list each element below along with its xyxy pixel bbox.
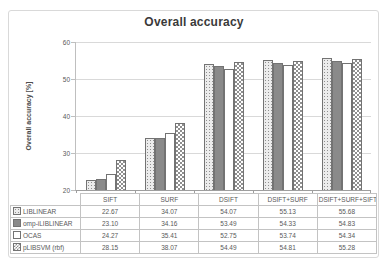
table-header-row: SIFTSURFDSIFTDSIFT+SURFDSIFT+SURF+SIFT [11,194,377,206]
legend-swatch-icon [13,219,21,227]
y-axis-label: Overall accuracy [%] [25,42,35,190]
value-cell: 54.83 [317,218,376,230]
y-tick-label: 30 [50,150,70,157]
table-row: pLIBSVM (rbf)28.1538.0754.4954.8155.28 [11,242,377,254]
legend-cell: omp-iLIBLINEAR [11,218,81,230]
category-header: DSIFT [199,194,258,206]
bar-omp-iLIBLINEAR-SIFT [96,179,106,190]
bar-LIBLINEAR-DSIFT [204,64,214,190]
y-tick-label: 60 [50,39,70,46]
value-cell: 34.07 [140,206,199,218]
value-cell: 54.81 [258,242,317,254]
value-cell: 54.49 [199,242,258,254]
data-table-body: SIFTSURFDSIFTDSIFT+SURFDSIFT+SURF+SIFTLI… [11,194,377,254]
bar-pLIBSVM (rbf)-DSIFT+SURF+SIFT [352,59,362,190]
value-cell: 54.33 [258,218,317,230]
category-header: SURF [140,194,199,206]
chart-title: Overall accuracy [8,15,380,29]
bar-LIBLINEAR-DSIFT+SURF+SIFT [322,58,332,190]
data-table: SIFTSURFDSIFTDSIFT+SURFDSIFT+SURF+SIFTLI… [10,193,377,254]
table-corner-cell [11,194,81,206]
value-cell: 24.27 [81,230,140,242]
value-cell: 35.41 [140,230,199,242]
category-header: DSIFT+SURF+SIFT [317,194,376,206]
bar-OCAS-DSIFT+SURF [283,65,293,190]
y-tick-label: 50 [50,76,70,83]
legend-swatch-icon [13,207,21,215]
value-cell: 55.68 [317,206,376,218]
table-row: OCAS24.2735.4152.7553.7454.34 [11,230,377,242]
value-cell: 38.07 [140,242,199,254]
category-header: SIFT [81,194,140,206]
bar-pLIBSVM (rbf)-SURF [175,123,185,190]
legend-swatch-icon [13,231,21,239]
bar-OCAS-DSIFT [224,69,234,190]
y-tick-label: 40 [50,113,70,120]
value-cell: 52.75 [199,230,258,242]
bar-LIBLINEAR-DSIFT+SURF [263,60,273,190]
category-header: DSIFT+SURF [258,194,317,206]
value-cell: 54.07 [199,206,258,218]
legend-swatch-icon [13,243,21,251]
value-cell: 55.13 [258,206,317,218]
table-row: omp-iLIBLINEAR23.1034.1653.4954.3354.83 [11,218,377,230]
legend-cell: OCAS [11,230,81,242]
gridline [76,42,371,43]
value-cell: 54.34 [317,230,376,242]
bar-LIBLINEAR-SURF [145,138,155,190]
table-row: LIBLINEAR22.6734.0754.0755.1355.68 [11,206,377,218]
bar-omp-iLIBLINEAR-SURF [155,138,165,190]
value-cell: 23.10 [81,218,140,230]
plot-area [75,42,371,191]
bar-pLIBSVM (rbf)-DSIFT [234,62,244,190]
chart-figure: Overall accuracy Overall accuracy [%] 20… [0,0,387,269]
legend-cell: pLIBSVM (rbf) [11,242,81,254]
bar-pLIBSVM (rbf)-DSIFT+SURF [293,61,303,190]
value-cell: 28.15 [81,242,140,254]
legend-cell: LIBLINEAR [11,206,81,218]
bar-omp-iLIBLINEAR-DSIFT [214,66,224,190]
bar-omp-iLIBLINEAR-DSIFT+SURF [273,63,283,190]
bar-OCAS-DSIFT+SURF+SIFT [342,63,352,190]
value-cell: 22.67 [81,206,140,218]
value-cell: 53.74 [258,230,317,242]
bar-LIBLINEAR-SIFT [86,180,96,190]
bar-OCAS-SURF [165,133,175,190]
value-cell: 55.28 [317,242,376,254]
bar-pLIBSVM (rbf)-SIFT [116,160,126,190]
bar-OCAS-SIFT [106,174,116,190]
value-cell: 34.16 [140,218,199,230]
bar-omp-iLIBLINEAR-DSIFT+SURF+SIFT [332,61,342,190]
value-cell: 53.49 [199,218,258,230]
